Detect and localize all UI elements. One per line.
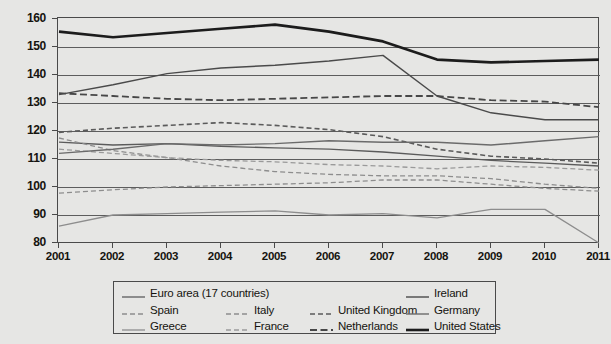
- series-line-united-states: [59, 25, 599, 63]
- legend-label: Italy: [254, 305, 274, 316]
- legend-swatch-line-icon: [310, 321, 333, 331]
- legend-item-spain[interactable]: Spain: [122, 302, 178, 318]
- y-axis-tick-label: 80: [2, 235, 46, 249]
- y-axis-tick-label: 110: [2, 151, 46, 165]
- series-line-italy: [59, 138, 599, 188]
- x-axis-tick-label: 2010: [532, 250, 556, 262]
- y-axis-tick-label: 120: [2, 123, 46, 137]
- legend-swatch-line-icon: [122, 288, 145, 298]
- legend-item-euro-area-17-countries[interactable]: Euro area (17 countries): [122, 285, 269, 301]
- legend-swatch-line-icon: [406, 305, 429, 315]
- legend-label: Spain: [150, 305, 178, 316]
- x-axis-tick-label: 2004: [208, 250, 232, 262]
- series-line-germany: [59, 137, 599, 154]
- y-axis-tick-label: 160: [2, 11, 46, 25]
- legend-item-italy[interactable]: Italy: [226, 302, 274, 318]
- chart-page: 8090100110120130140150160 20012002200320…: [0, 0, 611, 344]
- x-axis-tick-label: 2011: [586, 250, 610, 262]
- legend-item-greece[interactable]: Greece: [122, 318, 187, 334]
- legend-swatch-line-icon: [226, 305, 249, 315]
- chart-legend: Euro area (17 countries)IrelandSpainItal…: [113, 281, 496, 334]
- legend-label: Greece: [150, 321, 187, 332]
- series-lines: [58, 18, 600, 244]
- legend-swatch-line-icon: [226, 321, 249, 331]
- legend-swatch-line-icon: [310, 305, 333, 315]
- legend-item-ireland[interactable]: Ireland: [406, 285, 468, 301]
- legend-swatch-line-icon: [406, 321, 429, 331]
- legend-label: Germany: [434, 305, 480, 316]
- legend-swatch-line-icon: [122, 321, 145, 331]
- y-axis-tick-label: 100: [2, 179, 46, 193]
- y-axis-tick-label: 90: [2, 207, 46, 221]
- y-axis-tick-label: 130: [2, 95, 46, 109]
- x-axis-tick-label: 2006: [316, 250, 340, 262]
- legend-swatch-line-icon: [122, 305, 145, 315]
- series-line-spain: [59, 180, 599, 193]
- legend-swatch-line-icon: [406, 288, 429, 298]
- x-axis-tick-label: 2003: [154, 250, 178, 262]
- legend-label: Ireland: [434, 288, 468, 299]
- x-axis-tick-label: 2007: [370, 250, 394, 262]
- series-line-france: [59, 149, 599, 170]
- legend-label: France: [254, 321, 289, 332]
- legend-item-united-kingdom[interactable]: United Kingdom: [310, 302, 417, 318]
- legend-item-netherlands[interactable]: Netherlands: [310, 318, 398, 334]
- x-axis-tick-label: 2005: [262, 250, 286, 262]
- legend-item-france[interactable]: France: [226, 318, 289, 334]
- series-line-greece: [59, 209, 599, 243]
- series-line-ireland: [59, 55, 599, 119]
- series-line-netherlands: [59, 93, 599, 107]
- legend-label: United States: [434, 321, 500, 332]
- x-axis-tick-label: 2001: [46, 250, 70, 262]
- x-axis-tick-label: 2008: [424, 250, 448, 262]
- legend-item-united-states[interactable]: United States: [406, 318, 500, 334]
- y-axis-tick-label: 140: [2, 67, 46, 81]
- plot-area: [57, 17, 599, 243]
- x-axis-tick-label: 2002: [100, 250, 124, 262]
- legend-label: Netherlands: [338, 321, 398, 332]
- legend-label: Euro area (17 countries): [150, 288, 269, 299]
- legend-item-germany[interactable]: Germany: [406, 302, 480, 318]
- y-axis-tick-label: 150: [2, 39, 46, 53]
- x-axis-tick-label: 2009: [478, 250, 502, 262]
